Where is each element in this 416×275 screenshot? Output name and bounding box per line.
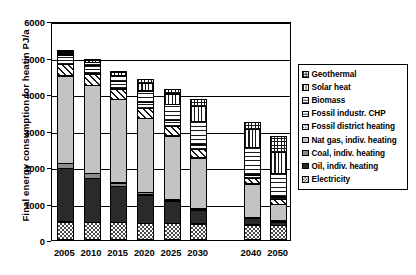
bar-2030 — [190, 100, 207, 240]
segment-electricity — [164, 223, 181, 240]
x-axis-tick-label-2010: 2010 — [78, 247, 105, 258]
segment-oil — [84, 178, 101, 223]
segment-nat-gas — [137, 118, 154, 192]
legend-item[interactable]: Biomass — [302, 94, 405, 107]
segment-oil — [190, 210, 207, 224]
y-axis-tick-mark — [47, 241, 51, 242]
legend-item-label: Solar heat — [312, 83, 351, 92]
bar-2005 — [57, 51, 74, 240]
segment-oil — [164, 201, 181, 224]
legend-item[interactable]: Solar heat — [302, 81, 405, 94]
vertical-lines-swatch-icon — [302, 84, 309, 91]
y-axis-tick-label: 4000 — [24, 90, 45, 101]
x-axis-tick-label-2020: 2020 — [131, 247, 158, 258]
segment-geothermal — [270, 136, 287, 153]
legend-item-label: Fossil district heating — [312, 122, 395, 131]
segment-oil — [110, 186, 127, 223]
bar-2040 — [244, 123, 261, 240]
legend-item-label: Oil, indiv. heating — [312, 162, 379, 171]
horizontal-lines-tight-swatch-icon — [302, 111, 309, 118]
segment-oil — [137, 195, 154, 224]
light-grey-swatch-icon — [302, 137, 309, 144]
legend-item-label: Electricity — [312, 175, 351, 184]
diagonal-hatch-swatch-icon — [302, 124, 309, 131]
x-axis-tick-label-2040: 2040 — [238, 247, 265, 258]
chart-legend: GeothermalSolar heatBiomassFossil indust… — [298, 64, 408, 190]
x-axis-tick-label-2015: 2015 — [104, 247, 131, 258]
horizontal-lines-wide-swatch-icon — [302, 97, 309, 104]
y-axis-tick-label: 3000 — [24, 126, 45, 137]
legend-item[interactable]: Electricity — [302, 173, 405, 186]
y-axis-tick-label: 6000 — [24, 17, 45, 28]
segment-biomass — [270, 173, 287, 197]
plot-area — [51, 22, 291, 241]
legend-item[interactable]: Fossil district heating — [302, 120, 405, 133]
legend-item[interactable]: Coal, indiv. heating — [302, 147, 405, 160]
grid-swatch-icon — [302, 71, 309, 78]
legend-item[interactable]: Oil, indiv. heating — [302, 160, 405, 173]
legend-item-label: Geothermal — [312, 70, 357, 79]
segment-solar-heat — [270, 152, 287, 174]
checker-swatch-icon — [302, 176, 309, 183]
y-axis-tick-label: 2000 — [24, 163, 45, 174]
x-axis-tick-label-2025: 2025 — [158, 247, 185, 258]
segment-oil — [57, 168, 74, 222]
x-axis-tick-label-2005: 2005 — [51, 247, 78, 258]
segment-electricity — [137, 223, 154, 240]
bar-2015 — [110, 71, 127, 240]
segment-solar-heat — [190, 106, 207, 122]
segment-electricity — [110, 222, 127, 240]
segment-fossil-district-heating — [57, 64, 74, 76]
segment-nat-gas — [110, 99, 127, 183]
segment-nat-gas — [164, 136, 181, 200]
segment-electricity — [190, 224, 207, 240]
legend-item-label: Fossil industr. CHP — [312, 109, 386, 118]
segment-biomass — [244, 147, 261, 175]
legend-item[interactable]: Geothermal — [302, 68, 405, 81]
bar-2020 — [137, 80, 154, 240]
y-axis-tick-label: 5000 — [24, 53, 45, 64]
legend-item-label: Biomass — [312, 96, 346, 105]
y-axis-tick-label: 0 — [40, 236, 45, 247]
segment-biomass — [190, 121, 207, 145]
y-axis-tick-label: 1000 — [24, 199, 45, 210]
segment-biomass — [137, 91, 154, 103]
segment-fossil-district-heating — [110, 89, 127, 100]
segment-electricity — [84, 222, 101, 240]
x-axis-tick-label-2030: 2030 — [184, 247, 211, 258]
solid-black-swatch-icon — [302, 163, 309, 170]
legend-item[interactable]: Nat gas, indiv. heating — [302, 133, 405, 146]
grid-line — [52, 23, 290, 24]
legend-item[interactable]: Fossil industr. CHP — [302, 107, 405, 120]
segment-biomass — [164, 104, 181, 121]
legend-item-label: Coal, indiv. heating — [312, 149, 385, 158]
segment-nat-gas — [57, 76, 74, 164]
bar-2025 — [164, 90, 181, 240]
segment-electricity — [57, 222, 74, 240]
bar-2050 — [270, 137, 287, 240]
segment-nat-gas — [244, 184, 261, 218]
chart-figure: Final energy consumption for heatin PJ/a… — [0, 0, 416, 275]
segment-electricity — [244, 225, 261, 240]
segment-nat-gas — [270, 204, 287, 221]
legend-item-label: Nat gas, indiv. heating — [312, 136, 397, 145]
segment-solar-heat — [244, 129, 261, 148]
segment-fossil-district-heating — [84, 74, 101, 86]
medium-grey-swatch-icon — [302, 150, 309, 157]
x-axis-tick-label-2050: 2050 — [264, 247, 291, 258]
segment-electricity — [270, 225, 287, 240]
segment-nat-gas — [84, 85, 101, 174]
bar-2010 — [84, 59, 101, 240]
segment-nat-gas — [190, 158, 207, 210]
